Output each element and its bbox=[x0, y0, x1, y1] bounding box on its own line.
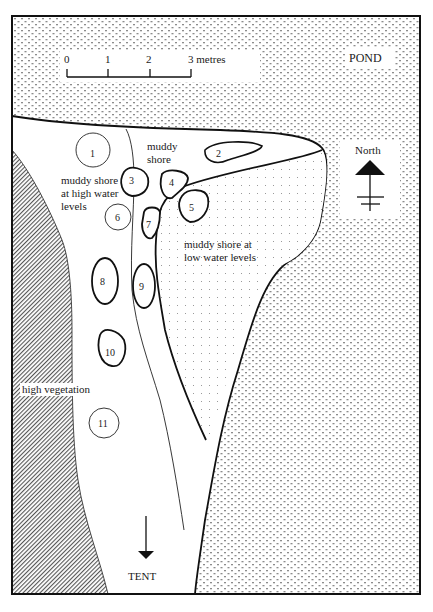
tent-label: TENT bbox=[128, 570, 156, 583]
svg-text:5: 5 bbox=[189, 202, 194, 213]
muddy-shore-label: muddy shore bbox=[147, 140, 178, 166]
pond-map: 1 2 3 4 5 6 7 8 9 10 11 bbox=[0, 0, 433, 612]
site-3[interactable] bbox=[121, 168, 148, 196]
svg-text:6: 6 bbox=[115, 212, 120, 223]
pond-label: POND bbox=[349, 52, 382, 65]
svg-text:3: 3 bbox=[129, 175, 134, 186]
svg-text:10: 10 bbox=[105, 347, 115, 358]
muddy-shore-high-water-label: muddy shore at high water levels bbox=[61, 174, 118, 213]
scale-tick-1: 1 bbox=[105, 53, 111, 66]
svg-text:9: 9 bbox=[139, 281, 144, 292]
muddy-shore-low-water-label: muddy shore at low water levels bbox=[184, 238, 256, 264]
svg-text:2: 2 bbox=[216, 148, 221, 159]
site-8[interactable] bbox=[92, 258, 118, 304]
high-vegetation-label: high vegetation bbox=[20, 383, 92, 396]
svg-text:1: 1 bbox=[90, 148, 95, 159]
site-9[interactable] bbox=[133, 264, 155, 308]
svg-text:4: 4 bbox=[169, 177, 174, 188]
scale-tick-2: 2 bbox=[146, 53, 152, 66]
scale-tick-3: 3 metres bbox=[188, 53, 226, 66]
north-label: North bbox=[355, 144, 381, 157]
svg-text:11: 11 bbox=[98, 418, 108, 429]
svg-text:8: 8 bbox=[100, 276, 105, 287]
svg-text:7: 7 bbox=[146, 219, 151, 230]
scale-tick-0: 0 bbox=[64, 53, 70, 66]
